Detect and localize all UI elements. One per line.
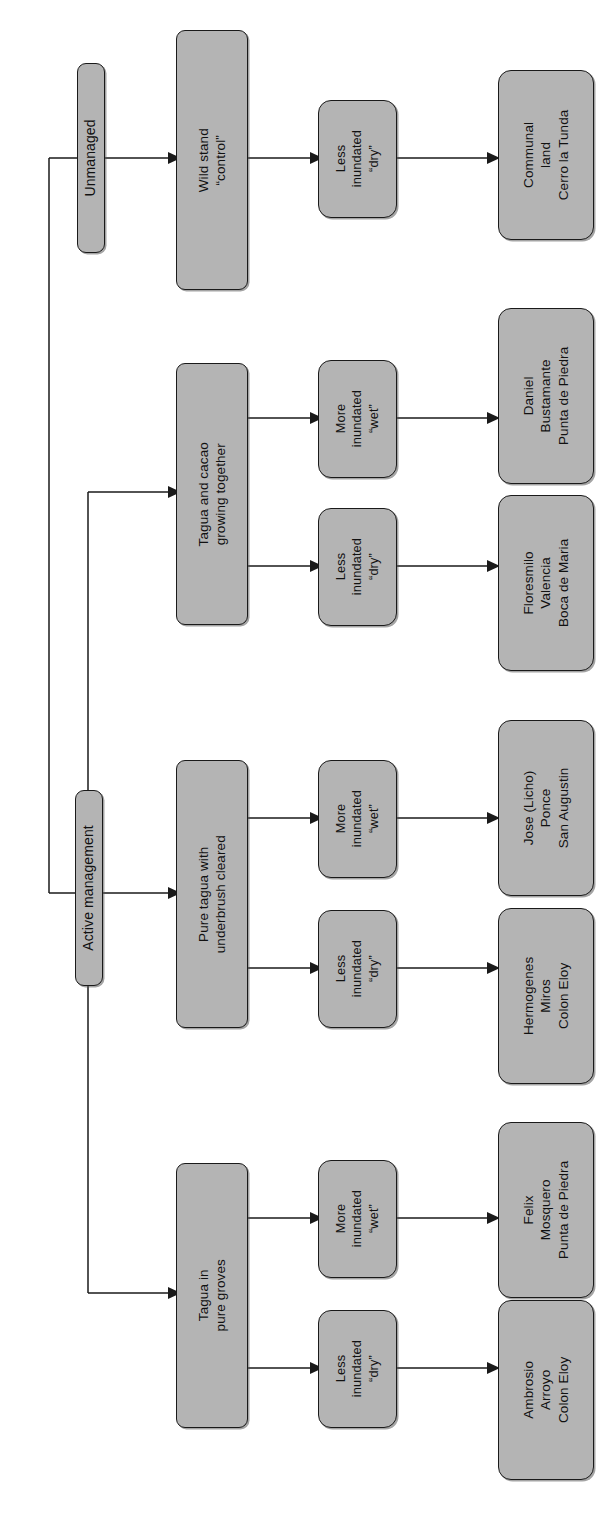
node-cleared-less-inundated-label: Less inundated “dry”: [333, 940, 382, 997]
node-site-floresmilo-valencia[interactable]: Floresmilo Valencia Boca de Maria: [498, 495, 594, 671]
node-site-felix-mosquero-label: Felix Mosquero Punta de Piedra: [520, 1161, 572, 1259]
node-cacao-more-inundated[interactable]: More inundated “wet”: [318, 360, 397, 478]
node-tagua-pure-groves[interactable]: Tagua in pure groves: [176, 1163, 248, 1428]
node-cacao-less-inundated[interactable]: Less inundated “dry”: [318, 508, 397, 626]
node-pure-tagua-cleared-label: Pure tagua with underbrush cleared: [195, 835, 230, 953]
node-tagua-cacao-label: Tagua and cacao growing together: [195, 442, 230, 546]
node-wild-stand[interactable]: Wild stand “control”: [176, 30, 248, 290]
node-site-hermogenes-miros[interactable]: Hermogenes Miros Colon Eloy: [498, 908, 594, 1084]
node-site-daniel-bustamante[interactable]: Daniel Bustamante Punta de Piedra: [498, 308, 594, 484]
node-active-management[interactable]: Active management: [75, 790, 103, 986]
node-groves-less-inundated[interactable]: Less inundated “dry”: [318, 1310, 397, 1428]
node-wild-less-inundated[interactable]: Less inundated “dry”: [318, 100, 397, 218]
node-cacao-less-inundated-label: Less inundated “dry”: [333, 538, 382, 595]
node-site-ambrosio-arroyo[interactable]: Ambrosio Arroyo Colon Eloy: [498, 1300, 594, 1480]
node-tagua-pure-groves-label: Tagua in pure groves: [195, 1259, 230, 1331]
node-cleared-more-inundated-label: More inundated “wet”: [333, 790, 382, 847]
node-site-ambrosio-arroyo-label: Ambrosio Arroyo Colon Eloy: [520, 1357, 572, 1423]
node-site-communal-land[interactable]: Communal land Cerro la Tunda: [498, 70, 594, 240]
node-unmanaged[interactable]: Unmanaged: [77, 63, 105, 253]
node-unmanaged-label: Unmanaged: [82, 119, 100, 196]
node-cacao-more-inundated-label: More inundated “wet”: [333, 390, 382, 447]
node-groves-less-inundated-label: Less inundated “dry”: [333, 1340, 382, 1397]
node-site-communal-land-label: Communal land Cerro la Tunda: [520, 110, 572, 201]
node-tagua-cacao[interactable]: Tagua and cacao growing together: [176, 363, 248, 625]
node-wild-less-inundated-label: Less inundated “dry”: [333, 130, 382, 187]
node-cleared-less-inundated[interactable]: Less inundated “dry”: [318, 910, 397, 1028]
node-site-floresmilo-valencia-label: Floresmilo Valencia Boca de Maria: [520, 539, 572, 627]
node-active-management-label: Active management: [80, 825, 98, 950]
node-wild-stand-label: Wild stand “control”: [195, 128, 230, 192]
node-groves-more-inundated-label: More inundated “wet”: [333, 1190, 382, 1247]
node-pure-tagua-cleared[interactable]: Pure tagua with underbrush cleared: [176, 760, 248, 1028]
node-cleared-more-inundated[interactable]: More inundated “wet”: [318, 760, 397, 878]
node-site-jose-ponce-label: Jose (Licho) Ponce San Augustin: [520, 768, 572, 849]
node-groves-more-inundated[interactable]: More inundated “wet”: [318, 1160, 397, 1278]
flowchart-canvas: Unmanaged Active management Wild stand “…: [0, 0, 596, 1527]
node-site-jose-ponce[interactable]: Jose (Licho) Ponce San Augustin: [498, 720, 594, 896]
node-site-daniel-bustamante-label: Daniel Bustamante Punta de Piedra: [520, 347, 572, 445]
node-site-felix-mosquero[interactable]: Felix Mosquero Punta de Piedra: [498, 1122, 594, 1298]
node-site-hermogenes-miros-label: Hermogenes Miros Colon Eloy: [520, 957, 572, 1035]
